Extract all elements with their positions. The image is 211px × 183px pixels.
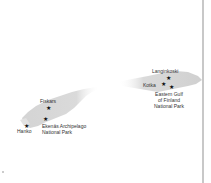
label-kotka: Kotka <box>143 82 156 88</box>
page-divider <box>202 0 204 183</box>
star-marker-icon[interactable]: ★ <box>169 84 174 90</box>
label-langinkoski: Langinkoski <box>152 68 178 74</box>
label-line: National Park <box>42 129 86 135</box>
label-line: National Park <box>154 103 184 109</box>
label-ekenas-national-park: Ekenäs Archipelago National Park <box>42 123 86 135</box>
star-marker-icon[interactable]: ★ <box>161 81 166 87</box>
star-marker-icon[interactable]: ★ <box>43 116 48 122</box>
western-coast <box>22 87 100 128</box>
star-marker-icon[interactable]: ★ <box>46 105 51 111</box>
eastern-coast <box>118 71 202 92</box>
label-fiskars: Fiskars <box>40 98 56 104</box>
label-eastern-gulf-national-park: Eastern Gulf of Finland National Park <box>154 91 184 109</box>
label-hanko: Hanko <box>17 128 31 134</box>
map-dot <box>2 171 4 173</box>
star-marker-icon[interactable]: ★ <box>166 75 171 81</box>
